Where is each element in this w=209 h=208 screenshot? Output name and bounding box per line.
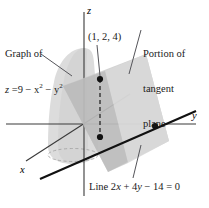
graph-of-label: Graph of z =9 − x2 − y2: [5, 24, 63, 119]
graph-eq-body: =9 − x: [9, 83, 39, 94]
portion-of-tangent-plane-label: Portion of tangent plane: [143, 24, 185, 153]
line-eq-suffix: − 14 = 0: [142, 181, 180, 192]
y-axis-label: y: [192, 110, 197, 121]
point-projection-dot: [97, 134, 103, 140]
line-eq-mid: + 4: [121, 181, 137, 192]
point-1-2-4-dot: [97, 76, 103, 82]
portion-label-line2: tangent: [143, 83, 185, 95]
graph-eq-mid: − y: [43, 83, 59, 94]
portion-label-line3: plane: [143, 118, 185, 130]
point-coordinate-label: (1, 2, 4): [88, 31, 121, 43]
graph-eq-exp-y: 2: [59, 82, 63, 90]
line-eq-prefix: Line 2: [89, 181, 116, 192]
graph-of-label-line1: Graph of: [5, 48, 63, 60]
leader-point-label: [97, 45, 100, 76]
tangent-plane-figure: Graph of z =9 − x2 − y2 (1, 2, 4) Portio…: [0, 0, 209, 208]
z-axis-label: z: [87, 5, 91, 16]
graph-of-label-line2: z =9 − x2 − y2: [5, 83, 63, 95]
portion-label-line1: Portion of: [143, 48, 185, 60]
x-axis-label: x: [20, 164, 25, 175]
line-equation-label: Line 2x + 4y − 14 = 0: [89, 181, 180, 193]
